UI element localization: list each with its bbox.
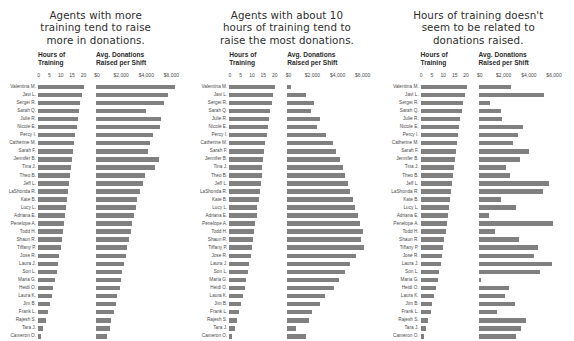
agent-name-label: Maria G. [0,276,36,284]
hours-bar [421,213,448,218]
donations-bar-cell [287,220,375,228]
hours-axis: 05101520 [421,72,471,81]
agent-name-label: LaShonda R. [0,188,36,196]
hours-column-header-line2: Training [229,59,256,67]
donations-bar-cell [479,107,567,115]
hours-bar [229,245,252,250]
hours-bar [38,101,80,106]
hours-bar [421,189,451,194]
table-row: Laura J. [191,260,382,268]
agent-name-label: Jeff L. [0,180,36,188]
hours-bar-cell [421,228,471,236]
agent-name-label: Catherine M. [191,139,227,147]
hours-bar [229,286,244,291]
hours-bar-cell [229,236,279,244]
agent-name-label: Jeff L. [191,180,227,188]
table-row: Julie R. [383,115,574,123]
column-headers: Hours ofTrainingAvg. DonationsRaised per… [191,51,382,72]
donations-bar-cell [96,268,184,276]
hours-bar-cell [38,196,88,204]
hours-bar-cell [229,107,279,115]
donations-bar [479,326,522,331]
table-row: Shaun R. [0,236,191,244]
hours-bar [421,93,465,98]
agent-name-label: Rajesh S. [383,316,419,324]
donations-axis-tick: $6,000 [164,72,179,78]
donations-bar [287,205,355,210]
donations-bar [96,157,159,162]
hours-bar [38,245,61,250]
donations-bar-cell [287,196,375,204]
donations-bar-cell [287,123,375,131]
hours-column-header-line2: Training [421,59,448,67]
donations-bar-cell [96,244,184,252]
agent-name-label: Nicole E. [191,123,227,131]
donations-bar-cell [96,300,184,308]
donations-bar-cell [96,180,184,188]
agent-name-label: Frank L. [383,308,419,316]
hours-bar [421,221,447,226]
table-row: Frank L. [0,308,191,316]
table-row: Son L. [383,268,574,276]
table-row: Jeff L. [383,180,574,188]
hours-bar-cell [229,316,279,324]
column-headers: Hours ofTrainingAvg. DonationsRaised per… [383,51,574,72]
donations-axis: $0$2,000$4,000$6,000 [96,72,184,81]
hours-axis: 05101520 [229,72,279,81]
hours-axis-tick: 15 [452,72,458,78]
hours-bar-cell [229,260,279,268]
hours-bar [38,286,53,291]
table-row: Valentina M. [383,83,574,91]
table-row: Valentina M. [191,83,382,91]
table-row: Shaun R. [383,236,574,244]
donations-column-header-line1: Avg. Donations [479,51,529,59]
table-row: Jim B. [0,300,191,308]
donations-bar-cell [287,300,375,308]
hours-bar-cell [38,316,88,324]
donations-bar [479,262,552,267]
agent-name-label: Todd H. [191,228,227,236]
agent-rows: Valentina M.Javi L.Sergei R.Sarah Q.Juli… [0,83,191,341]
agent-name-label: Percy I. [0,131,36,139]
donations-bar-cell [96,316,184,324]
hours-bar-cell [38,284,88,292]
agent-name-label: Penelope A. [191,220,227,228]
hours-bar [229,197,258,202]
agent-name-label: Todd H. [0,228,36,236]
donations-bar-cell [479,212,567,220]
donations-axis-tick: $4,000 [139,72,154,78]
donations-bar-cell [96,172,184,180]
donations-bar-cell [96,163,184,171]
agent-name-label: Kate B. [0,196,36,204]
hours-bar-cell [421,91,471,99]
donations-bar-cell [96,284,184,292]
hours-bar [421,262,441,267]
hours-bar [38,165,71,170]
donations-bar-cell [287,292,375,300]
donations-bar-cell [96,139,184,147]
donations-bar-cell [287,204,375,212]
hours-bar [229,189,259,194]
donations-bar [96,229,131,234]
hours-bar [38,310,48,315]
hours-bar-cell [421,155,471,163]
donations-bar-cell [479,220,567,228]
hours-column-header-line1: Hours of [38,51,65,59]
hours-bar-cell [229,268,279,276]
donations-bar-cell [96,147,184,155]
agent-name-label: Percy I. [383,131,419,139]
hours-bar-cell [421,196,471,204]
donations-bar-cell [479,316,567,324]
hours-bar [229,173,261,178]
donations-bar-cell [287,139,375,147]
hours-bar [38,117,78,122]
hours-bar [421,270,440,275]
table-row: Heidi O. [0,284,191,292]
donations-bar [287,157,340,162]
table-row: Cameron O. [191,332,382,340]
donations-bar-cell [479,300,567,308]
hours-bar [421,229,446,234]
table-row: Catherine M. [191,139,382,147]
donations-bar-cell [96,131,184,139]
donations-axis-tick: $0 [477,72,483,78]
